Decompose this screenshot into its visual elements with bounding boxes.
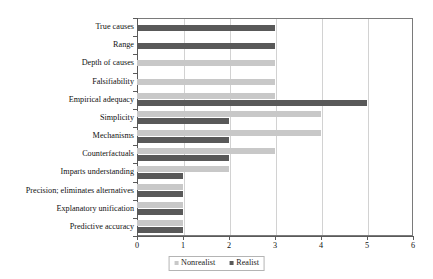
bar-nonrealist (137, 220, 183, 226)
realist-swatch-icon (229, 261, 233, 265)
bar-group (0, 91, 433, 109)
bar-realist (137, 118, 229, 124)
bar-nonrealist (137, 79, 275, 85)
bar-nonrealist (137, 111, 321, 117)
legend-item: Nonrealist (174, 258, 215, 268)
bar-group (0, 36, 433, 54)
x-axis-tick-label: 1 (181, 241, 185, 251)
legend-label: Realist (236, 258, 259, 268)
bar-group (0, 127, 433, 145)
x-axis-tick (229, 236, 230, 240)
bar-realist (137, 209, 183, 215)
bar-group (0, 200, 433, 218)
x-axis-tick-label: 3 (273, 241, 277, 251)
x-axis-tick-label: 2 (227, 241, 231, 251)
x-axis-tick-label: 0 (135, 241, 139, 251)
x-axis-tick (183, 236, 184, 240)
bar-group (0, 163, 433, 181)
bar-nonrealist (137, 184, 183, 190)
bar-chart: True causesRangeDepth of causesFalsifiab… (0, 0, 433, 279)
x-axis-tick-label: 5 (365, 241, 369, 251)
nonrealist-swatch-icon (174, 261, 178, 265)
bar-nonrealist (137, 202, 183, 208)
bar-group (0, 73, 433, 91)
bar-nonrealist (137, 93, 275, 99)
bar-realist (137, 100, 367, 106)
x-axis-tick (367, 236, 368, 240)
bar-realist (137, 43, 275, 49)
bar-group (0, 145, 433, 163)
bar-group (0, 218, 433, 236)
bar-nonrealist (137, 148, 275, 154)
bar-group (0, 182, 433, 200)
x-axis-tick (321, 236, 322, 240)
bar-group (0, 109, 433, 127)
legend-item: Realist (229, 258, 259, 268)
bar-nonrealist (137, 130, 321, 136)
bar-realist (137, 137, 229, 143)
bar-group (0, 18, 433, 36)
x-axis-tick (137, 236, 138, 240)
bar-realist (137, 155, 229, 161)
bar-realist (137, 191, 183, 197)
bar-nonrealist (137, 60, 275, 66)
legend-label: Nonrealist (181, 258, 215, 268)
x-axis-tick (413, 236, 414, 240)
bar-realist (137, 227, 183, 233)
bar-realist (137, 173, 183, 179)
x-axis-tick-label: 6 (411, 241, 415, 251)
chart-legend: NonrealistRealist (168, 256, 265, 271)
x-axis-tick (275, 236, 276, 240)
bar-nonrealist (137, 166, 229, 172)
bar-group (0, 54, 433, 72)
bar-realist (137, 25, 275, 31)
x-axis-tick-label: 4 (319, 241, 323, 251)
